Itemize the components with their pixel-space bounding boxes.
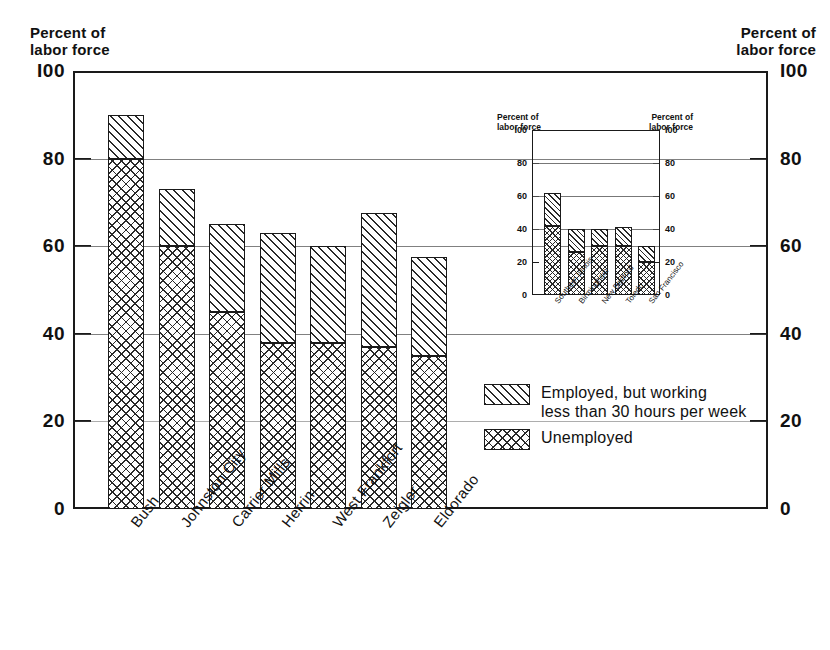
inset-bar-segment-employed-part-time [544, 193, 561, 226]
y-axis-tick-label-right: 20 [780, 410, 826, 432]
inset-y-tick-label-left: 60 [505, 191, 527, 201]
legend: Employed, but working less than 30 hours… [484, 383, 759, 457]
inset-chart: Percent of labor force Percent of labor … [497, 112, 693, 292]
bar-segment-unemployed [108, 159, 144, 509]
inset-bar-segment-unemployed [544, 226, 561, 295]
inset-bar-segment-employed-part-time [638, 246, 655, 263]
cross-hatch-swatch-icon [484, 429, 530, 450]
inset-bar-stack [544, 193, 561, 295]
legend-item-employed-part-time: Employed, but working less than 30 hours… [484, 383, 759, 421]
bar-segment-unemployed [411, 356, 447, 509]
y-axis-tick-label-left: 40 [21, 323, 65, 345]
left-axis-caption: Percent of labor force [30, 24, 110, 58]
inset-y-tick-label-left: I00 [505, 125, 527, 135]
inset-bar-segment-employed-part-time [591, 229, 608, 246]
inset-y-tick-label-right: 60 [665, 191, 689, 201]
y-axis-tick-label-right: 40 [780, 323, 826, 345]
bar-stack [411, 257, 447, 509]
legend-item-unemployed: Unemployed [484, 428, 759, 450]
inset-y-tick-label-right: 40 [665, 224, 689, 234]
legend-label-unemployed: Unemployed [541, 428, 633, 447]
inset-bar-group [532, 130, 660, 295]
bar-segment-employed-part-time [361, 213, 397, 347]
bar-segment-unemployed [159, 246, 195, 509]
y-axis-tick-label-left: 60 [21, 235, 65, 257]
y-axis-tick-label-left: I00 [21, 60, 65, 82]
y-axis-tick-label-right: I00 [780, 60, 826, 82]
bar-segment-employed-part-time [159, 189, 195, 246]
bar-stack [159, 189, 195, 509]
inset-y-tick-label-left: 20 [505, 257, 527, 267]
bar-stack [310, 246, 346, 509]
inset-y-tick-label-right: 0 [665, 290, 689, 300]
bar-segment-employed-part-time [108, 115, 144, 159]
bar-segment-employed-part-time [260, 233, 296, 343]
bar-segment-employed-part-time [411, 257, 447, 356]
y-axis-tick-label-right: 0 [780, 498, 826, 520]
bar-segment-unemployed [310, 343, 346, 509]
chart-canvas: Percent of labor force Percent of labor … [0, 0, 830, 650]
legend-label-employed-part-time: Employed, but working less than 30 hours… [541, 383, 747, 421]
bar-stack [108, 115, 144, 509]
bar-segment-employed-part-time [209, 224, 245, 312]
bar-segment-employed-part-time [310, 246, 346, 342]
inset-y-tick-label-left: 40 [505, 224, 527, 234]
inset-y-tick-label-left: 0 [505, 290, 527, 300]
y-axis-tick-label-right: 80 [780, 148, 826, 170]
right-axis-caption: Percent of labor force [736, 24, 816, 58]
diagonal-hatch-swatch-icon [484, 384, 530, 405]
y-axis-tick-label-left: 20 [21, 410, 65, 432]
inset-bar-segment-employed-part-time [615, 227, 632, 245]
inset-bar-segment-employed-part-time [568, 229, 585, 252]
y-axis-tick-label-left: 80 [21, 148, 65, 170]
inset-y-tick-label-left: 80 [505, 158, 527, 168]
y-axis-tick-label-right: 60 [780, 235, 826, 257]
inset-y-tick-label-right: 80 [665, 158, 689, 168]
y-axis-tick-label-left: 0 [21, 498, 65, 520]
inset-y-tick-label-right: I00 [665, 125, 689, 135]
